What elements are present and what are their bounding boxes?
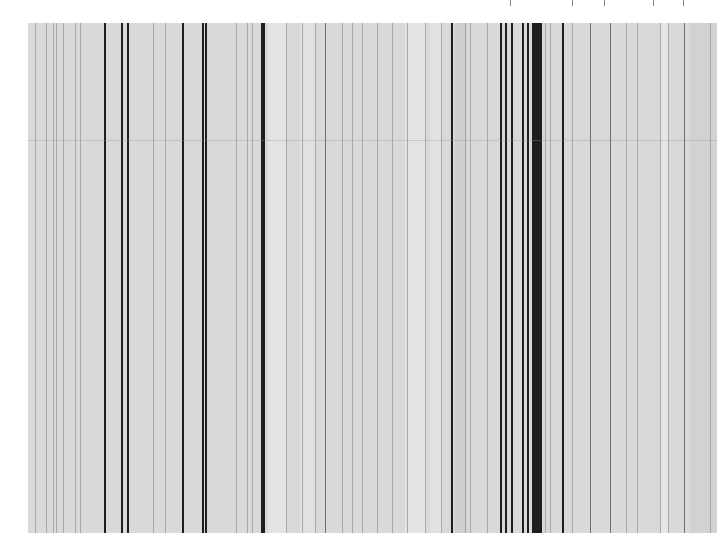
cropped-caption-fragment [0, 0, 717, 8]
spectral-line [540, 23, 542, 533]
spectral-line [35, 23, 36, 533]
spectral-line [590, 23, 591, 533]
spectral-line [377, 23, 378, 533]
spectral-line [352, 23, 353, 533]
spectral-line [121, 23, 123, 533]
spectral-line [425, 23, 426, 533]
spectral-line [637, 23, 638, 533]
spectral-line [182, 23, 184, 533]
spectral-line [80, 23, 81, 533]
spectral-line [325, 23, 326, 533]
spectral-line [626, 23, 627, 533]
spectral-line [500, 23, 502, 533]
spectral-line [572, 23, 573, 533]
spectral-line [550, 23, 551, 533]
spectral-line [127, 23, 129, 533]
plate-band [268, 23, 286, 533]
plate-band [690, 23, 717, 533]
spectral-line [202, 23, 204, 533]
plate-band [660, 23, 668, 533]
caption-glyph-fragment [510, 0, 511, 6]
spectral-line [46, 23, 47, 533]
spectral-line [668, 23, 669, 533]
spectral-line [451, 23, 453, 533]
spectral-line [545, 23, 546, 533]
caption-glyph-fragment [572, 0, 573, 6]
spectral-line [441, 23, 442, 533]
spectral-line [562, 23, 564, 533]
caption-glyph-fragment [604, 0, 605, 6]
spectral-line [392, 23, 393, 533]
spectral-line [263, 23, 265, 533]
spectral-line [75, 23, 76, 533]
spectral-line [487, 23, 488, 533]
scan-seam [28, 140, 717, 141]
spectral-line [104, 23, 106, 533]
spectral-line [710, 23, 711, 533]
spectral-line [236, 23, 237, 533]
caption-glyph-fragment [683, 0, 684, 6]
plate-band [405, 23, 425, 533]
spectral-line [522, 23, 524, 533]
caption-glyph-fragment [653, 0, 654, 6]
spectral-line [286, 23, 287, 533]
spectral-line [465, 23, 466, 533]
spectral-line [660, 23, 661, 533]
spectral-line [342, 23, 343, 533]
spectral-line [684, 23, 685, 533]
spectral-line [63, 23, 64, 533]
spectral-line [205, 23, 207, 533]
spectral-line [470, 23, 471, 533]
spectral-line [610, 23, 611, 533]
spectral-line [153, 23, 154, 533]
spectral-line [165, 23, 166, 533]
spectral-line [315, 23, 316, 533]
spectral-line [252, 23, 253, 533]
spectral-plate [28, 23, 717, 533]
spectral-line [56, 23, 57, 533]
spectral-line [407, 23, 408, 533]
spectral-line [505, 23, 507, 533]
spectral-line [302, 23, 303, 533]
spectral-line [511, 23, 513, 533]
spectral-line [53, 23, 54, 533]
spectral-line [527, 23, 529, 533]
spectral-line [362, 23, 363, 533]
spectral-line [247, 23, 248, 533]
